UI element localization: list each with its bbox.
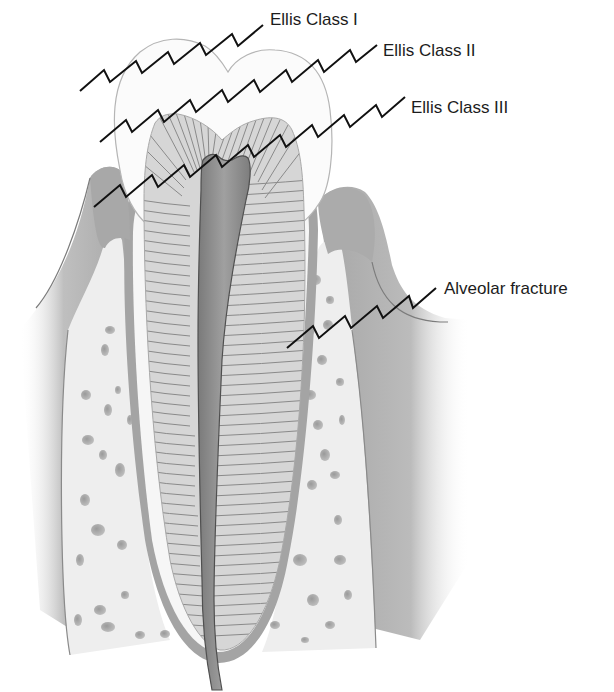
label-ellis-class-1: Ellis Class I [270,11,358,28]
label-ellis-class-3: Ellis Class III [411,99,508,116]
label-alveolar-fracture: Alveolar fracture [444,280,568,297]
tooth-illustration [0,0,614,692]
tooth-fracture-diagram: Ellis Class I Ellis Class II Ellis Class… [0,0,614,692]
label-ellis-class-2: Ellis Class II [383,42,476,59]
